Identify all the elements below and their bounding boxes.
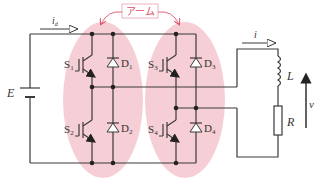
full-bridge-inverter-diagram: アーム E id S1 [0,0,318,183]
output-current: i [242,29,276,43]
input-current: id [40,15,78,29]
arm-label: アーム [126,6,155,17]
resistor [274,106,282,135]
arm-annotation: アーム [101,4,179,24]
load: L R [237,49,295,157]
inductor-label: L [286,69,294,83]
arm-highlight-right [145,22,225,178]
dc-source: E [6,34,40,163]
voltage-label: v [309,98,314,110]
output-current-label: i [254,29,257,40]
circuit-svg: アーム E id S1 [0,0,318,183]
output-voltage: v [306,78,314,128]
resistor-label: R [286,115,295,129]
source-label: E [6,86,15,100]
inductor [278,56,281,86]
input-current-label: id [52,15,59,27]
arm-arrow-right [158,12,179,24]
arm-highlight-left [63,22,143,178]
